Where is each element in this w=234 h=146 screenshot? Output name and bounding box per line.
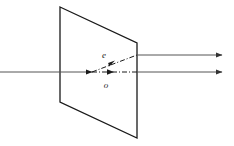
diagram-canvas: e o [0, 0, 234, 146]
extraordinary-ray-label: e [102, 50, 106, 60]
ordinary-ray-label: o [104, 80, 109, 90]
ordinary-ray-arrowhead [107, 69, 114, 75]
extraordinary-ray-internal [92, 55, 137, 72]
split-point-arrowhead [86, 70, 93, 75]
optics-diagram-figure: e o [0, 0, 234, 146]
